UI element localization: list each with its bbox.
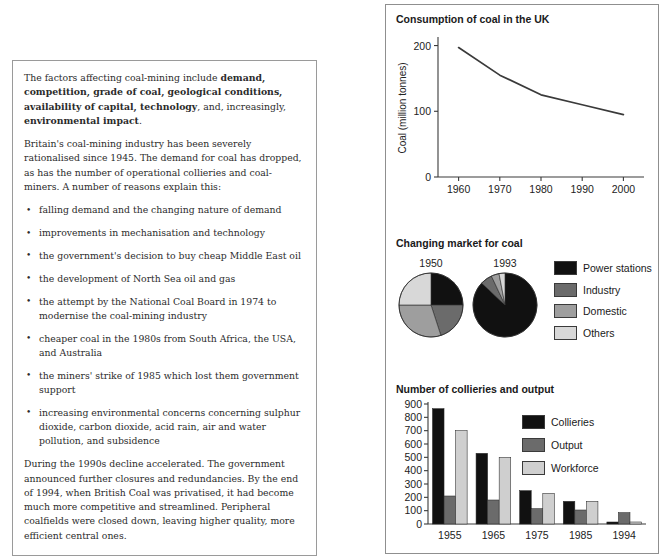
page-root: The factors affecting coal-mining includ… (0, 0, 665, 558)
list-item: improvements in mechanisation and techno… (24, 226, 305, 240)
bar-rect (575, 510, 587, 524)
bar-y-tick: 600 (404, 438, 422, 450)
bar-x-tick: 1994 (613, 529, 637, 541)
line-x-tick: 1990 (571, 183, 595, 195)
bar-rect (630, 522, 642, 524)
pie-1950-svg (398, 272, 464, 338)
intro-text-run: , and, increasingly, (197, 101, 286, 112)
pie-legend-item: Others (554, 326, 652, 340)
pie-slice (431, 273, 463, 305)
bar-rect (607, 522, 619, 524)
list-item: the miners' strike of 1985 which lost th… (24, 369, 305, 398)
legend-swatch (522, 415, 545, 429)
bar-legend-item: Workforce (522, 461, 599, 475)
line-series-path (459, 48, 624, 115)
bar-rect (543, 493, 555, 524)
line-x-tick: 1980 (529, 183, 553, 195)
pie-chart-block: Changing market for coal 1950 1993 Power… (394, 237, 652, 369)
legend-label: Others (583, 327, 615, 339)
legend-swatch (554, 283, 577, 297)
line-x-tick: 1970 (488, 183, 512, 195)
legend-swatch (554, 261, 577, 275)
list-item: the attempt by the National Coal Board i… (24, 295, 305, 324)
bar-rect (563, 501, 575, 524)
bar-y-tick: 300 (404, 478, 422, 490)
bar-chart-block: Number of collieries and output 01002003… (394, 383, 652, 551)
bar-y-tick: 0 (416, 518, 422, 530)
bar-legend-item: Collieries (522, 415, 599, 429)
line-y-axis-label: Coal (million tonnes) (397, 62, 408, 153)
bar-y-tick: 700 (404, 424, 422, 436)
bar-x-tick: 1985 (569, 529, 593, 541)
bar-legend: CollieriesOutputWorkforce (522, 415, 599, 484)
bar-rect (476, 453, 488, 524)
bar-rect (499, 457, 511, 524)
pie-1993-svg (472, 272, 538, 338)
legend-label: Industry (583, 284, 620, 296)
pie-1950-label: 1950 (398, 257, 464, 269)
list-item: cheaper coal in the 1980s from South Afr… (24, 332, 305, 361)
line-chart-svg: 010020019601970198019902000Coal (million… (394, 29, 652, 209)
bar-rect (520, 491, 532, 524)
legend-label: Domestic (583, 305, 627, 317)
bar-y-tick: 900 (404, 398, 422, 410)
pie-slice (399, 273, 431, 305)
legend-label: Output (551, 439, 583, 451)
pie-1993-label: 1993 (472, 257, 538, 269)
bar-y-tick: 500 (404, 451, 422, 463)
pie-legend-item: Industry (554, 283, 652, 297)
legend-swatch (522, 461, 545, 475)
bar-x-tick: 1955 (438, 529, 462, 541)
line-y-tick: 200 (413, 40, 431, 52)
line-x-tick: 1960 (447, 183, 471, 195)
pie-1993-wrapper: 1993 (472, 257, 538, 342)
legend-swatch (554, 304, 577, 318)
reasons-list: falling demand and the changing nature o… (24, 203, 305, 448)
line-y-tick: 0 (425, 171, 431, 183)
list-item: the government's decision to buy cheap M… (24, 249, 305, 263)
pie-legend: Power stationsIndustryDomesticOthers (554, 261, 652, 347)
pie-1950-wrapper: 1950 (398, 257, 464, 342)
list-item: falling demand and the changing nature o… (24, 203, 305, 217)
list-item: the development of North Sea oil and gas (24, 272, 305, 286)
intro-text-run: The factors affecting coal-mining includ… (24, 72, 220, 83)
bar-rect (432, 409, 444, 524)
legend-label: Workforce (551, 462, 599, 474)
line-x-tick: 2000 (612, 183, 636, 195)
legend-label: Collieries (551, 416, 594, 428)
bar-rect (586, 501, 598, 524)
paragraph-final: During the 1990s decline accelerated. Th… (24, 457, 305, 543)
bar-y-tick: 400 (404, 464, 422, 476)
intro-paragraph: The factors affecting coal-mining includ… (24, 71, 305, 128)
list-item: increasing environmental concerns concer… (24, 406, 305, 449)
paragraph-2: Britain's coal-mining industry has been … (24, 137, 305, 194)
intro-text-run: . (139, 115, 142, 126)
pie-chart-title: Changing market for coal (396, 237, 523, 249)
pie-legend-item: Domestic (554, 304, 652, 318)
bar-y-tick: 800 (404, 411, 422, 423)
line-chart-title: Consumption of coal in the UK (396, 13, 549, 25)
bar-rect (531, 509, 543, 524)
bar-rect (618, 513, 630, 524)
legend-swatch (522, 438, 545, 452)
legend-label: Power stations (583, 262, 652, 274)
line-y-tick: 100 (413, 105, 431, 117)
pie-legend-item: Power stations (554, 261, 652, 275)
bar-y-tick: 100 (404, 504, 422, 516)
bar-chart-title: Number of collieries and output (396, 383, 554, 395)
bar-rect (456, 431, 468, 524)
intro-bold-run: environmental impact (24, 115, 139, 126)
bar-rect (488, 500, 500, 524)
bar-rect (444, 496, 456, 524)
bar-x-tick: 1965 (482, 529, 506, 541)
legend-swatch (554, 326, 577, 340)
bar-y-tick: 200 (404, 491, 422, 503)
bar-legend-item: Output (522, 438, 599, 452)
bar-x-tick: 1975 (525, 529, 549, 541)
line-chart-block: Consumption of coal in the UK 0100200196… (394, 13, 652, 213)
charts-panel: Consumption of coal in the UK 0100200196… (385, 4, 659, 554)
article-text-panel: The factors affecting coal-mining includ… (12, 60, 317, 556)
